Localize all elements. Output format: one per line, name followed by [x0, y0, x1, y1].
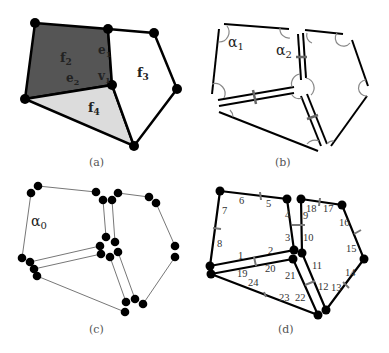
dart-16: 16 [339, 217, 350, 228]
dart-1: 1 [238, 250, 243, 261]
dart-22: 22 [295, 292, 306, 303]
panel-b-darts-with-involutions: α1 α2 (b) [212, 24, 368, 169]
dart-3: 3 [285, 232, 290, 243]
caption-c: (c) [89, 323, 104, 336]
label-alpha1: α1 [228, 34, 244, 52]
dart-6: 6 [239, 195, 244, 206]
dart-24: 24 [248, 277, 259, 288]
panel-a-planar-subdivision: f2 e1 e2 v1 f3 f4 (a) [20, 18, 182, 169]
dart-5: 5 [266, 198, 271, 209]
dart-18: 18 [306, 203, 317, 214]
dart-7: 7 [222, 205, 227, 216]
caption-b: (b) [275, 156, 291, 169]
dart-8: 8 [217, 238, 222, 249]
label-alpha0: α0 [31, 213, 47, 231]
dart-4: 4 [285, 209, 291, 220]
dart-15: 15 [346, 243, 357, 254]
dart-13: 13 [331, 282, 342, 293]
dart-21: 21 [285, 270, 296, 281]
caption-a: (a) [89, 156, 104, 169]
label-alpha2: α2 [276, 42, 292, 60]
dart-nodes [18, 182, 180, 317]
dart-11: 11 [312, 260, 322, 271]
dart-14: 14 [345, 267, 356, 278]
panel-c-alpha0-darts: α0 (c) [18, 182, 180, 336]
combinatorial-map-figure: f2 e1 e2 v1 f3 f4 (a) [0, 0, 389, 353]
caption-d: (d) [278, 323, 294, 336]
panel-d-numbered-darts: 1 2 3 4 5 6 7 8 9 10 11 12 13 14 15 16 1… [206, 187, 369, 337]
dart-2: 2 [268, 245, 273, 256]
dart-23: 23 [279, 292, 290, 303]
dart-12: 12 [318, 281, 329, 292]
dart-17: 17 [323, 203, 334, 214]
dart-20: 20 [265, 263, 276, 274]
dart-10: 10 [303, 232, 314, 243]
dart-19: 19 [237, 268, 248, 279]
